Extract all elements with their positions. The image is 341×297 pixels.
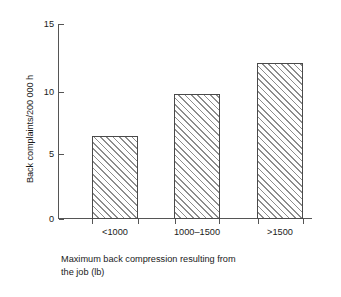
y-tick-mark <box>59 92 64 93</box>
bar-category-1 <box>174 94 220 219</box>
y-tick-15: 15 <box>58 24 64 25</box>
y-tick-10: 10 <box>58 92 64 93</box>
bar-category-2 <box>257 63 303 219</box>
y-tick-label: 15 <box>44 19 54 29</box>
x-tick-mark <box>175 219 176 224</box>
x-tick-mark <box>303 219 304 224</box>
y-tick-0: 0 <box>58 219 64 220</box>
x-axis-title-line1: Maximum back compression resulting from <box>61 254 236 264</box>
y-tick-mark <box>59 154 64 155</box>
y-axis-line <box>58 24 59 219</box>
y-tick-label: 5 <box>49 149 54 159</box>
x-axis-title: Maximum back compression resulting from … <box>61 253 331 278</box>
y-tick-mark <box>59 219 64 220</box>
bar-category-0 <box>92 136 138 219</box>
y-axis-title: Back complaints/200 000 h <box>23 29 37 229</box>
y-tick-label: 10 <box>44 87 54 97</box>
x-tick-label-2: >1500 <box>267 227 293 237</box>
x-tick-mark <box>258 219 259 224</box>
x-tick-label-1: 1000–1500 <box>174 227 220 237</box>
y-tick-5: 5 <box>58 154 64 155</box>
plot-area: 0 5 10 15 <1000 1000–1500 >1500 <box>58 24 312 219</box>
x-tick-mark <box>138 219 139 224</box>
x-tick-mark <box>219 219 220 224</box>
x-tick-label-0: <1000 <box>102 227 128 237</box>
bar-chart-figure: Back complaints/200 000 h 0 5 10 15 <box>0 0 341 297</box>
x-axis-title-line2: the job (lb) <box>61 266 331 279</box>
x-tick-mark <box>92 219 93 224</box>
y-tick-label: 0 <box>49 214 54 224</box>
y-tick-mark <box>59 24 64 25</box>
